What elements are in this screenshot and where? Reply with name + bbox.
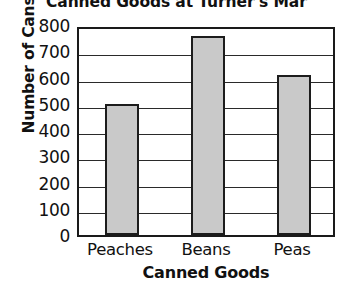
y-tick-label: 0: [22, 228, 70, 245]
x-tick-label: Peaches: [77, 240, 163, 260]
x-axis-tick-labels: PeachesBeansPeas: [77, 240, 335, 262]
y-tick-label: 200: [22, 176, 70, 193]
plot-area: [77, 27, 335, 237]
y-tick-label: 100: [22, 202, 70, 219]
y-tick-label: 800: [22, 18, 70, 35]
bar-series: [79, 29, 333, 235]
bar-chart: Canned Goods at Turner's Mar Number of C…: [0, 0, 350, 289]
y-tick-label: 300: [22, 149, 70, 166]
y-tick-label: 500: [22, 97, 70, 114]
y-tick-label: 600: [22, 71, 70, 88]
y-tick-label: 400: [22, 123, 70, 140]
bar-beans: [191, 36, 225, 236]
x-tick-label: Beans: [163, 240, 249, 260]
x-axis-title: Canned Goods: [77, 263, 335, 282]
bar-peaches: [105, 104, 139, 235]
y-axis-tick-labels: 8007006005004003002001000: [22, 0, 70, 289]
chart-title: Canned Goods at Turner's Mar: [46, 0, 350, 11]
x-tick-label: Peas: [249, 240, 335, 260]
bar-peas: [277, 75, 311, 235]
y-tick-label: 700: [22, 44, 70, 61]
